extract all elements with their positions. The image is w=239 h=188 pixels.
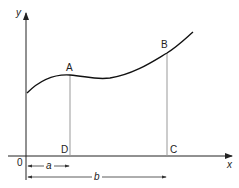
origin-label: 0 bbox=[17, 157, 23, 168]
x-axis-label: x bbox=[226, 159, 233, 170]
dimension-a-label: a bbox=[46, 160, 52, 171]
function-graph-diagram: y x 0 A B C D a b bbox=[0, 0, 239, 188]
point-b-label: B bbox=[161, 39, 168, 50]
point-a-label: A bbox=[66, 62, 73, 73]
graph-svg: y x 0 A B C D a b bbox=[0, 0, 239, 188]
point-d-label: D bbox=[61, 144, 68, 155]
y-axis-label: y bbox=[15, 7, 22, 18]
dimension-b-label: b bbox=[94, 171, 100, 182]
function-curve bbox=[27, 32, 193, 93]
point-c-label: C bbox=[170, 144, 177, 155]
